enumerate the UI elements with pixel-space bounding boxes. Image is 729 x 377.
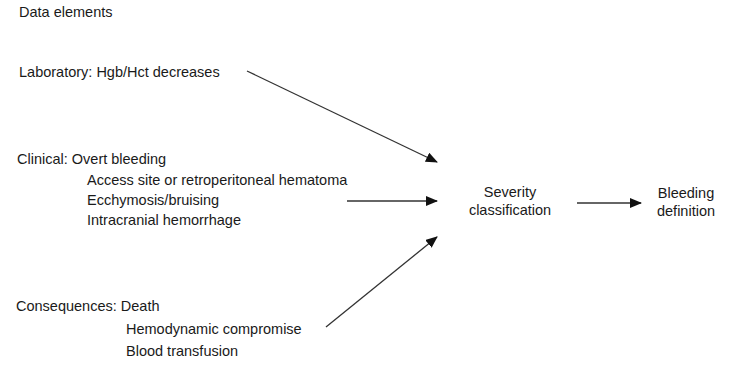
clinical-item: Access site or retroperitoneal hematoma: [87, 171, 347, 189]
bleeding-line2: definition: [648, 202, 724, 220]
consequences-label: Consequences: Death: [16, 297, 160, 315]
laboratory-label: Laboratory: Hgb/Hct decreases: [19, 63, 220, 81]
bleeding-definition-node: Bleeding definition: [648, 184, 724, 220]
clinical-label: Clinical: Overt bleeding: [17, 150, 166, 168]
clinical-item: Ecchymosis/bruising: [87, 191, 219, 209]
severity-line1: Severity: [458, 183, 562, 201]
consequences-item: Hemodynamic compromise: [126, 320, 302, 338]
arrow-laboratory-to-severity: [247, 71, 437, 162]
consequences-item: Blood transfusion: [126, 342, 238, 360]
diagram-title: Data elements: [19, 3, 113, 21]
clinical-item: Intracranial hemorrhage: [87, 211, 241, 229]
severity-line2: classification: [458, 201, 562, 219]
bleeding-line1: Bleeding: [648, 184, 724, 202]
arrow-consequences-to-severity: [326, 237, 437, 327]
severity-classification-node: Severity classification: [458, 183, 562, 219]
